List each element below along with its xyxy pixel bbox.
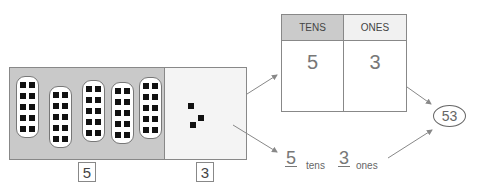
- arrow-table-to-result-icon: [407, 87, 431, 104]
- arrow-to-table-icon: [247, 75, 277, 94]
- arrows: [0, 0, 480, 196]
- arrow-expanded-to-result-icon: [388, 130, 432, 158]
- arrow-to-expanded-icon: [233, 125, 277, 152]
